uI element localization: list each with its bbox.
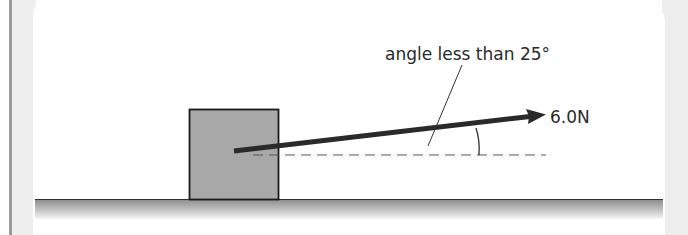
angle-arc xyxy=(476,128,479,155)
force-magnitude-label: 6.0N xyxy=(550,107,590,127)
block xyxy=(190,110,279,200)
ground-surface xyxy=(35,199,663,219)
angle-annotation-label: angle less than 25° xyxy=(385,44,550,64)
annotation-leader-line xyxy=(428,65,462,146)
force-diagram: angle less than 25° 6.0N xyxy=(0,0,688,235)
force-arrow-head-icon xyxy=(526,109,546,124)
ground-shading xyxy=(35,199,663,219)
